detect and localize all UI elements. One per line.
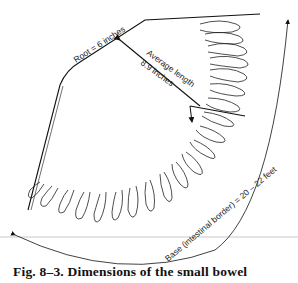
root-label: Root = 6 inches — [72, 24, 127, 65]
base-label: Base (intestinal border) = 20 – 22 feet — [163, 164, 279, 264]
figure-caption: Fig. 8–3. Dimensions of the small bowel — [13, 264, 247, 280]
small-bowel-diagram: Root = 6 inches Average length 8.9 inche… — [0, 0, 298, 283]
average-length-drop — [190, 106, 192, 122]
intestinal-loops — [28, 21, 248, 222]
